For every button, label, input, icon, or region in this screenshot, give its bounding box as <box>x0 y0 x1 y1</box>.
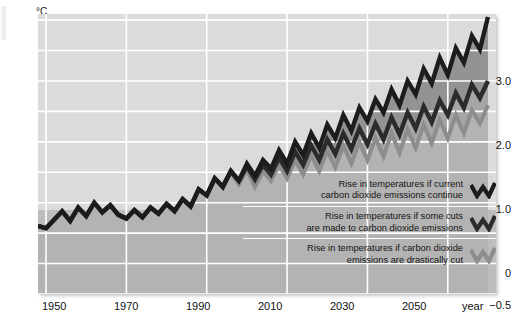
legend-item-medium[interactable]: Rise in temperatures if some cuts are ma… <box>243 206 496 238</box>
legend-swatch-medium-icon <box>470 214 496 232</box>
legend-item-low[interactable]: Rise in temperatures if carbon dioxide e… <box>243 238 496 270</box>
legend-label-low: Rise in temperatures if carbon dioxide e… <box>307 243 470 265</box>
x-tick-label-2010: 2010 <box>258 300 282 312</box>
legend-label-high: Rise in temperatures if current carbon d… <box>321 179 470 201</box>
legend-item-high[interactable]: Rise in temperatures if current carbon d… <box>243 174 496 206</box>
x-tick-label-2030: 2030 <box>330 300 354 312</box>
legend-swatch-high-icon <box>470 181 496 199</box>
chart-legend: Rise in temperatures if current carbon d… <box>243 174 496 270</box>
x-tick-label-1970: 1970 <box>114 300 138 312</box>
plot-area: Rise in temperatures if current carbon d… <box>38 14 496 294</box>
legend-swatch-low-icon <box>470 246 496 264</box>
legend-label-medium: Rise in temperatures if some cuts are ma… <box>306 211 470 233</box>
x-tick-label-2050: 2050 <box>402 300 426 312</box>
x-tick-label-1990: 1990 <box>186 300 210 312</box>
x-axis-title: year <box>462 300 483 312</box>
x-tick-label-1950: 1950 <box>42 300 66 312</box>
page-edge-tab <box>0 6 7 40</box>
chart-figure: °C Expected change in global temperature… <box>0 0 511 335</box>
